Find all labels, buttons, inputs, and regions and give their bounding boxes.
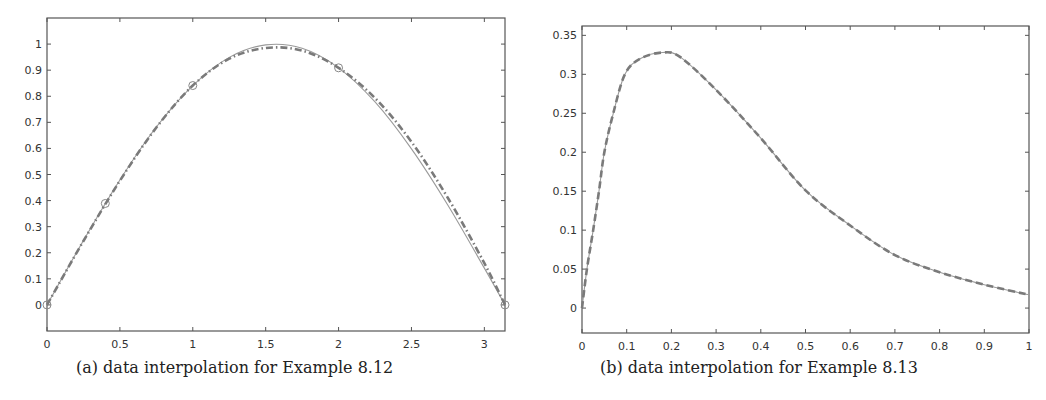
x-tick-label: 1 bbox=[1026, 340, 1033, 353]
y-tick-label: 0.2 bbox=[25, 247, 43, 260]
x-tick-label: 1.5 bbox=[257, 338, 275, 351]
x-tick-label: 0.9 bbox=[976, 340, 994, 353]
y-tick-label: 0.1 bbox=[25, 273, 43, 286]
solid-curve bbox=[582, 52, 1029, 308]
x-tick-label: 0.2 bbox=[663, 340, 681, 353]
y-tick-label: 0.1 bbox=[560, 224, 578, 237]
axes-box bbox=[582, 26, 1029, 333]
y-tick-label: 0.05 bbox=[553, 263, 578, 276]
y-tick-label: 0.6 bbox=[25, 142, 43, 155]
x-tick-label: 0 bbox=[44, 338, 51, 351]
dashed-curve bbox=[582, 52, 1029, 308]
y-tick-label: 0.25 bbox=[553, 107, 578, 120]
x-tick-label: 3 bbox=[481, 338, 488, 351]
x-tick-label: 0.8 bbox=[931, 340, 949, 353]
x-tick-label: 2 bbox=[335, 338, 342, 351]
caption-b: (b) data interpolation for Example 8.13 bbox=[600, 358, 918, 377]
y-tick-label: 0 bbox=[35, 299, 42, 312]
x-tick-label: 0.5 bbox=[797, 340, 815, 353]
y-tick-label: 1 bbox=[35, 38, 42, 51]
solid-curve bbox=[47, 44, 505, 305]
y-tick-label: 0.8 bbox=[25, 90, 43, 103]
x-tick-label: 2.5 bbox=[403, 338, 421, 351]
figure-canvas: 00.511.522.5300.10.20.30.40.50.60.70.80.… bbox=[0, 0, 1046, 400]
x-tick-label: 0.3 bbox=[707, 340, 725, 353]
x-tick-label: 0.1 bbox=[618, 340, 636, 353]
y-tick-label: 0.3 bbox=[25, 221, 43, 234]
y-tick-label: 0.9 bbox=[25, 64, 43, 77]
plot-b: 00.10.20.30.40.50.60.70.80.9100.050.10.1… bbox=[553, 26, 1033, 353]
plot-a: 00.511.522.5300.10.20.30.40.50.60.70.80.… bbox=[25, 18, 510, 351]
caption-a: (a) data interpolation for Example 8.12 bbox=[76, 358, 393, 377]
y-tick-label: 0 bbox=[570, 302, 577, 315]
x-tick-label: 0.6 bbox=[841, 340, 859, 353]
y-tick-label: 0.3 bbox=[560, 68, 578, 81]
x-tick-label: 0.4 bbox=[752, 340, 770, 353]
x-tick-label: 0.7 bbox=[886, 340, 904, 353]
dashed-curve bbox=[47, 47, 505, 305]
axes-box bbox=[47, 18, 505, 331]
x-tick-label: 0 bbox=[579, 340, 586, 353]
y-tick-label: 0.7 bbox=[25, 116, 43, 129]
x-tick-label: 1 bbox=[189, 338, 196, 351]
y-tick-label: 0.4 bbox=[25, 195, 43, 208]
x-tick-label: 0.5 bbox=[111, 338, 129, 351]
y-tick-label: 0.5 bbox=[25, 169, 43, 182]
y-tick-label: 0.15 bbox=[553, 185, 578, 198]
y-tick-label: 0.2 bbox=[560, 146, 578, 159]
y-tick-label: 0.35 bbox=[553, 29, 578, 42]
